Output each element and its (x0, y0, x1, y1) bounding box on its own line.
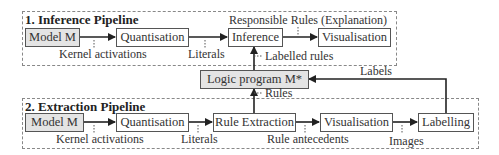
labelled-rules-label: Labelled rules (265, 49, 333, 64)
rule-antecedents-label: Rule antecedents (267, 132, 349, 147)
logic-program-node: Logic program M* (200, 70, 309, 89)
extraction-kernel-activations-label: Kernel activations (56, 132, 144, 147)
inference-node: Inference (228, 28, 283, 47)
inference-kernel-activations-label: Kernel activations (59, 47, 147, 62)
extraction-quantisation-node: Quantisation (116, 113, 189, 132)
labels-label: Labels (360, 64, 392, 79)
inference-visualisation-node: Visualisation (318, 28, 391, 47)
images-label: Images (389, 134, 424, 149)
rules-label: Rules (265, 86, 292, 101)
extraction-visualisation-node: Visualisation (320, 113, 393, 132)
rule-extraction-node: Rule Extraction (213, 113, 296, 132)
inference-literals-label: Literals (188, 47, 225, 62)
inference-model-m-node: Model M (25, 28, 80, 47)
extraction-literals-label: Literals (181, 132, 218, 147)
labelling-node: Labelling (418, 113, 474, 132)
extraction-model-m-node: Model M (25, 113, 84, 132)
responsible-rules-label: Responsible Rules (Explanation) (229, 13, 387, 28)
inference-quantisation-node: Quantisation (116, 28, 189, 47)
